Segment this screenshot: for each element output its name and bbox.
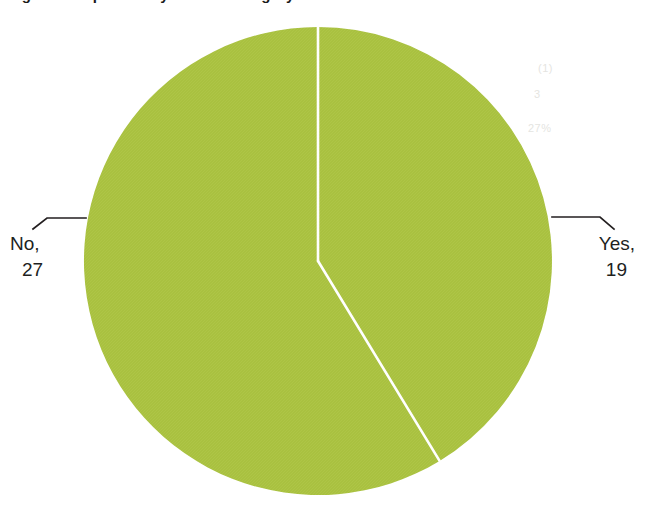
pie-label-yes-value: 19 xyxy=(599,257,635,283)
pie-chart-svg xyxy=(0,0,648,509)
leader-line-no xyxy=(33,218,86,229)
pie-chart-page: Figure: Responses by answer category (1)… xyxy=(0,0,648,509)
pie-chart: No, 27 Yes, 19 xyxy=(0,0,648,509)
pie-label-yes: Yes, 19 xyxy=(599,231,635,283)
pie-label-yes-category: Yes, xyxy=(599,233,635,254)
leader-line-yes xyxy=(552,217,614,229)
pie-label-no: No, 27 xyxy=(10,231,43,283)
pie-label-no-value: 27 xyxy=(10,257,43,283)
pie-label-no-category: No, xyxy=(10,233,40,254)
